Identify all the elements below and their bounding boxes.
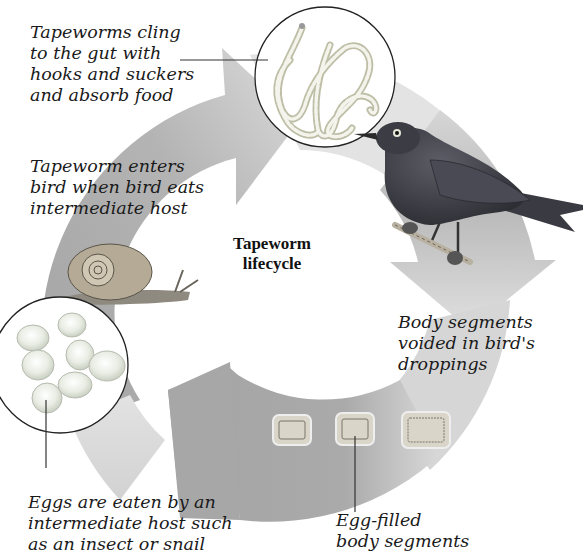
label-voided: Body segments voided in bird's droppings [398, 312, 535, 375]
title-line-1: Tapeworm [217, 234, 327, 254]
title-line-2: lifecycle [217, 254, 327, 274]
label-cling: Tapeworms cling to the gut with hooks an… [30, 22, 194, 106]
segment-1 [273, 415, 311, 445]
diagram-title: Tapeworm lifecycle [217, 234, 327, 274]
tapeworms-inset [255, 7, 395, 147]
segment-3 [402, 412, 450, 448]
label-segments: Egg-filled body segments [336, 510, 469, 552]
tapeworm-lifecycle-diagram: Tapeworm lifecycle Tapeworms cling to th… [0, 0, 583, 557]
label-eggs: Eggs are eaten by an intermediate host s… [28, 492, 232, 555]
label-enters: Tapeworm enters bird when bird eats inte… [30, 156, 204, 219]
